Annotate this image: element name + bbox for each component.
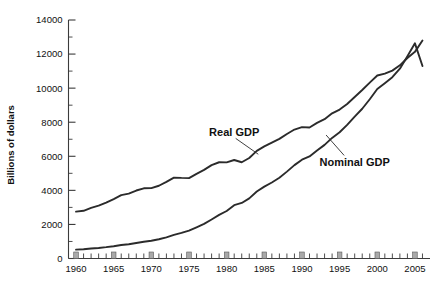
series-line-nominal-gdp	[76, 43, 422, 249]
y-axis-title: Billions of dollars	[5, 105, 16, 185]
x-tick-major	[187, 252, 192, 259]
annotation-nominal-gdp: Nominal GDP	[320, 156, 390, 168]
series-layer	[76, 40, 422, 249]
x-tick-label: 1970	[141, 263, 162, 274]
x-tick-major	[149, 252, 154, 259]
x-tick-label: 1995	[329, 263, 350, 274]
x-tick-label: 2005	[404, 263, 425, 274]
annotation-real-gdp: Real GDP	[209, 126, 259, 138]
x-tick-label: 1980	[216, 263, 237, 274]
y-tick-label: 12000	[36, 48, 62, 59]
x-tick-label: 1990	[291, 263, 312, 274]
x-tick-label: 1965	[103, 263, 124, 274]
annotation-leader-line	[326, 135, 344, 155]
x-tick-major	[375, 252, 380, 259]
x-tick-major	[262, 252, 267, 259]
y-tick-label: 4000	[41, 185, 62, 196]
x-tick-label: 1960	[65, 263, 86, 274]
x-tick-major	[337, 252, 342, 259]
x-tick-major	[111, 252, 116, 259]
annotation-leader-line	[236, 138, 259, 154]
y-tick-label: 8000	[41, 117, 62, 128]
x-tick-major	[74, 252, 79, 259]
y-tick-label: 2000	[41, 219, 62, 230]
x-tick-major	[413, 252, 418, 259]
x-axis: 1960196519701975198019851990199520002005	[65, 252, 430, 274]
y-tick-label: 14000	[36, 14, 62, 25]
x-tick-label: 1985	[254, 263, 275, 274]
x-tick-major	[224, 252, 229, 259]
y-axis: 02000400060008000100001200014000	[36, 14, 75, 264]
y-tick-label: 6000	[41, 151, 62, 162]
y-tick-label: 10000	[36, 83, 62, 94]
x-tick-label: 2000	[367, 263, 388, 274]
x-tick-major	[300, 252, 305, 259]
chart-canvas: 02000400060008000100001200014000 1960196…	[0, 0, 443, 290]
y-tick-label: 0	[57, 253, 62, 264]
x-tick-label: 1975	[178, 263, 199, 274]
gdp-line-chart: 02000400060008000100001200014000 1960196…	[0, 0, 443, 290]
